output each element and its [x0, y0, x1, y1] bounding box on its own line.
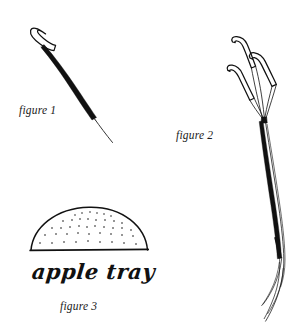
figure-3-base-line: [30, 249, 148, 250]
figure-2-label: figure 2: [176, 129, 213, 141]
figure-3-label: figure 3: [60, 300, 97, 312]
figure-1-label: figure 1: [19, 104, 56, 116]
apple-tray-caption: apple tray: [31, 259, 157, 284]
drawing-sheet: figure 1 figure 2 apple tray figure 3: [0, 0, 303, 326]
